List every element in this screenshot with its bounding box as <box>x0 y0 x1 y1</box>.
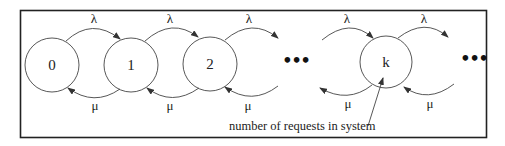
svg-text:μ: μ <box>245 98 252 113</box>
arc-2-1 <box>147 88 199 98</box>
arc-0-1 <box>66 28 120 41</box>
svg-text:μ: μ <box>427 96 434 111</box>
state-1: 1 <box>104 38 158 92</box>
svg-text:λ: λ <box>91 11 98 26</box>
arc-1-2 <box>145 28 198 41</box>
state-0: 0 <box>25 38 79 92</box>
ellipsis-end: ••• <box>460 49 488 68</box>
state-k: k <box>360 36 412 88</box>
arc-next-k <box>404 84 454 95</box>
svg-text:λ: λ <box>421 11 428 26</box>
svg-text:0: 0 <box>48 57 56 73</box>
svg-text:λ: λ <box>344 11 351 26</box>
svg-text:μ: μ <box>167 98 174 113</box>
arc-2-next <box>225 28 278 40</box>
lambda-labels: λ λ λ λ λ <box>91 11 428 26</box>
markov-chain-diagram: 0 1 2 k ••• ••• λ λ λ λ λ μ μ <box>0 0 505 146</box>
arc-next-2 <box>225 86 278 96</box>
svg-text:k: k <box>382 54 390 70</box>
svg-text:μ: μ <box>92 98 99 113</box>
svg-text:λ: λ <box>246 11 253 26</box>
arc-k-next <box>398 27 448 38</box>
arc-prev-k <box>322 28 373 40</box>
ellipsis-middle: ••• <box>282 51 310 70</box>
svg-text:2: 2 <box>206 56 214 72</box>
arc-1-0 <box>68 88 120 98</box>
svg-text:1: 1 <box>127 57 135 73</box>
svg-text:λ: λ <box>167 11 174 26</box>
annotation-label: number of requests in system <box>229 119 376 133</box>
mu-labels: μ μ μ μ μ <box>92 96 434 113</box>
arc-k-prev <box>320 85 372 95</box>
state-2: 2 <box>183 37 237 91</box>
svg-text:μ: μ <box>345 96 352 111</box>
